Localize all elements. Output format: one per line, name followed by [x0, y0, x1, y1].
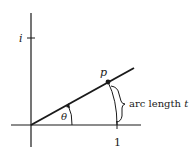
imag-unit-label: i: [19, 32, 23, 45]
arc-length-brace: [111, 86, 125, 122]
unit-circle-diagram: i p θ 1 arc length t: [0, 0, 194, 157]
ray-line: [31, 68, 134, 125]
arc-length-label: arc length t: [129, 98, 189, 109]
arc-length-text: arc length: [129, 98, 184, 109]
arc-length-variable: t: [184, 98, 189, 109]
unit-tick-label: 1: [114, 136, 121, 149]
angle-arc: [68, 105, 72, 125]
unit-circle-arc: [108, 82, 117, 125]
point-p-label: p: [100, 66, 107, 79]
angle-theta-label: θ: [61, 111, 67, 122]
